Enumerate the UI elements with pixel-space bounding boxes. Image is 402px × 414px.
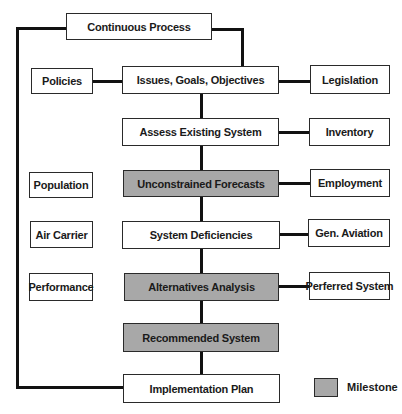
box-policies: Policies — [31, 68, 93, 94]
connector-process-right — [211, 28, 243, 31]
legend-milestone-swatch — [314, 378, 338, 397]
connector-legislation — [279, 80, 310, 83]
box-assess-existing-system: Assess Existing System — [122, 118, 279, 146]
connector-employment — [278, 182, 310, 185]
feedback-line-bottom — [16, 386, 124, 389]
box-employment: Employment — [310, 169, 390, 197]
box-system-deficiencies: System Deficiencies — [122, 221, 280, 249]
connector-inventory — [279, 131, 310, 134]
box-continuous-process: Continuous Process — [66, 13, 212, 40]
spine-3 — [200, 196, 203, 222]
spine-1 — [200, 93, 203, 119]
connector-process-down — [241, 28, 244, 67]
connector-gen-aviation — [280, 233, 309, 236]
box-alternatives-analysis: Alternatives Analysis — [124, 273, 279, 301]
box-gen-aviation: Gen. Aviation — [308, 219, 390, 247]
box-population: Population — [29, 172, 93, 198]
spine-6 — [200, 351, 203, 375]
box-recommended-system: Recommended System — [123, 323, 279, 352]
box-air-carrier: Air Carrier — [30, 221, 93, 248]
box-legislation: Legislation — [310, 65, 390, 94]
spine-4 — [200, 248, 203, 274]
box-preferred-system: Perferred System — [309, 272, 390, 300]
box-unconstrained-forecasts: Unconstrained Forecasts — [123, 170, 279, 197]
box-performance: Performance — [29, 273, 93, 301]
spine-2 — [200, 145, 203, 171]
spine-5 — [200, 300, 203, 324]
connector-policies — [92, 80, 123, 83]
legend-milestone-label: Milestone — [347, 381, 398, 393]
box-implementation-plan: Implementation Plan — [123, 374, 280, 403]
feedback-line-top — [16, 27, 67, 30]
feedback-line-left — [16, 27, 19, 389]
box-issues-goals-objectives: Issues, Goals, Objectives — [122, 66, 279, 94]
box-inventory: Inventory — [309, 118, 390, 146]
